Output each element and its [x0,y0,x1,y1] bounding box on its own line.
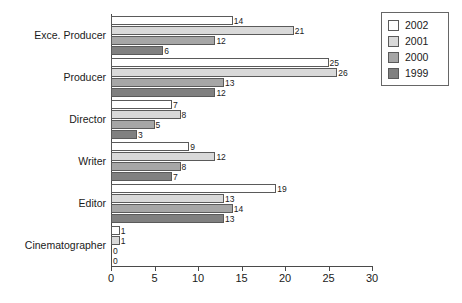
bar-row: 19 [111,184,372,193]
bar[interactable]: 12 [111,36,215,45]
bar-value-label: 6 [164,46,169,55]
bar-value-label: 0 [113,246,118,255]
x-axis-tick-label: 25 [322,273,334,284]
bar-value-label: 26 [338,68,347,77]
bar-row: 14 [111,204,372,213]
bar-row: 12 [111,152,372,161]
bar-chart: Exce. Producer1421126Producer25261312Dir… [0,0,462,303]
x-axis-tick [329,266,330,271]
bar-value-label: 13 [225,194,234,203]
legend-item[interactable]: 2001 [388,34,442,48]
legend-label: 2001 [405,36,428,47]
legend-item[interactable]: 2000 [388,50,442,64]
legend-item[interactable]: 2002 [388,18,442,32]
bar-row: 21 [111,26,372,35]
bar-row: 8 [111,162,372,171]
bar-value-label: 21 [295,26,304,35]
bar[interactable]: 13 [111,78,224,87]
bar[interactable]: 7 [111,100,172,109]
bar-value-label: 13 [225,78,234,87]
bar-row: 26 [111,68,372,77]
bar[interactable]: 5 [111,120,155,129]
bar-row: 5 [111,120,372,129]
bar[interactable]: 8 [111,162,181,171]
bar-row: 0 [111,256,372,265]
bar-value-label: 7 [173,100,178,109]
bar-value-label: 14 [234,16,243,25]
bar[interactable]: 12 [111,152,215,161]
category-group: Writer91287 [111,142,372,182]
bar[interactable]: 25 [111,58,329,67]
legend-item[interactable]: 1999 [388,66,442,80]
category-label: Writer [78,156,106,167]
bar-value-label: 12 [216,152,225,161]
category-group: Editor19131413 [111,184,372,224]
bar-value-label: 8 [182,162,187,171]
bar-row: 9 [111,142,372,151]
bar-value-label: 14 [234,204,243,213]
bar-row: 12 [111,36,372,45]
category-label: Producer [63,72,106,83]
bar-value-label: 1 [121,226,126,235]
bar-value-label: 12 [216,88,225,97]
bar[interactable]: 13 [111,194,224,203]
bar[interactable]: 3 [111,130,137,139]
bar-row: 1 [111,236,372,245]
bar-row: 12 [111,88,372,97]
bar[interactable]: 12 [111,88,215,97]
x-axis-tick-label: 20 [279,273,291,284]
bar-value-label: 25 [330,58,339,67]
bar-row: 6 [111,46,372,55]
category-label: Editor [79,198,106,209]
bar-row: 0 [111,246,372,255]
category-group: Producer25261312 [111,58,372,98]
bar-value-label: 12 [216,36,225,45]
bar-value-label: 8 [182,110,187,119]
x-axis-tick-label: 10 [192,273,204,284]
bar-row: 8 [111,110,372,119]
bar-value-label: 9 [190,142,195,151]
legend-swatch-icon [388,52,399,63]
plot-area: Exce. Producer1421126Producer25261312Dir… [111,14,372,266]
bar[interactable]: 14 [111,16,233,25]
bar-value-label: 7 [173,172,178,181]
bar-value-label: 1 [121,236,126,245]
category-group: Cinematographer1100 [111,226,372,266]
bar-row: 13 [111,194,372,203]
bar-value-label: 0 [113,256,118,265]
x-axis-tick-label: 0 [108,273,114,284]
bar-value-label: 5 [156,120,161,129]
bar[interactable]: 21 [111,26,294,35]
x-axis-tick-label: 15 [235,273,247,284]
bar[interactable]: 6 [111,46,163,55]
bar-value-label: 3 [138,130,143,139]
bar[interactable]: 1 [111,226,120,235]
legend-swatch-icon [388,36,399,47]
legend-swatch-icon [388,68,399,79]
bar[interactable]: 26 [111,68,337,77]
legend-label: 2000 [405,52,428,63]
bar-row: 13 [111,214,372,223]
x-axis-tick [242,266,243,271]
bar-row: 14 [111,16,372,25]
x-axis-tick [155,266,156,271]
bar[interactable]: 8 [111,110,181,119]
legend: 2002200120001999 [381,12,449,86]
x-axis-tick-label: 5 [151,273,157,284]
bar[interactable]: 13 [111,214,224,223]
category-group: Exce. Producer1421126 [111,16,372,56]
legend-label: 2002 [405,20,428,31]
category-label: Director [69,114,106,125]
bar[interactable]: 19 [111,184,276,193]
x-axis-tick-label: 30 [366,273,378,284]
x-axis-tick [198,266,199,271]
bar[interactable]: 1 [111,236,120,245]
bar[interactable]: 9 [111,142,189,151]
bar-row: 3 [111,130,372,139]
bar[interactable]: 14 [111,204,233,213]
x-axis-tick [111,266,112,271]
x-axis-tick [285,266,286,271]
bar-row: 7 [111,172,372,181]
bar[interactable]: 7 [111,172,172,181]
bar-value-label: 19 [277,184,286,193]
